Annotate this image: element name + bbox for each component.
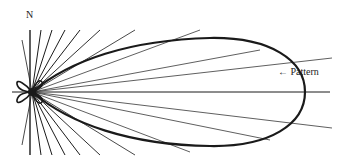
pattern-label: ← Pattern xyxy=(278,67,319,77)
diagram-canvas xyxy=(0,0,338,162)
radial-lines xyxy=(12,30,332,155)
north-label: N xyxy=(26,10,33,20)
radiation-pattern-diagram: N ← Pattern xyxy=(0,0,338,162)
antenna-origin xyxy=(28,88,36,96)
